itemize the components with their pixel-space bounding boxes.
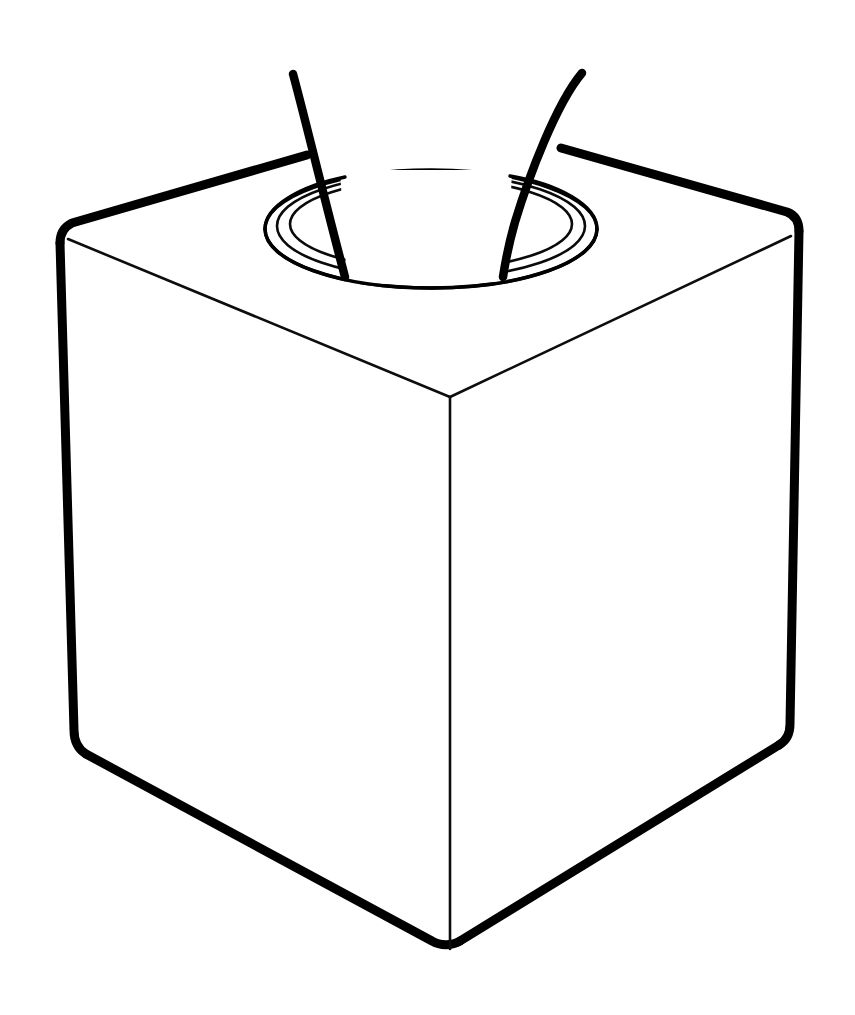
opening-center-occluder <box>340 170 512 284</box>
dispensing-opening <box>265 170 597 288</box>
drawing-canvas: Tissue Box Line Drawing A cube-shaped ti… <box>0 0 855 1015</box>
tissue-box-illustration <box>0 0 855 1015</box>
